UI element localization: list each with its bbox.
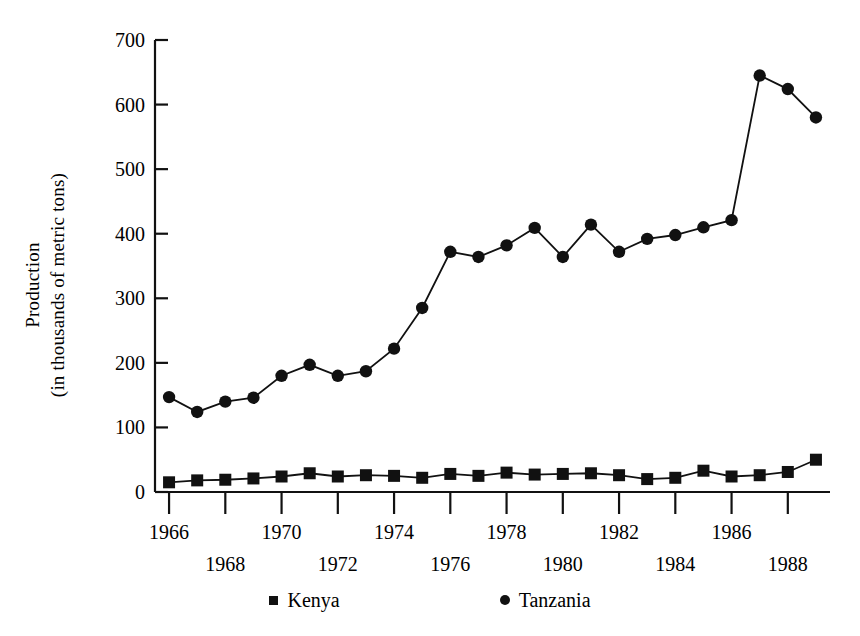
x-axis-tick-label: 1966 (134, 522, 204, 542)
data-point-kenya (444, 468, 456, 480)
data-point-tanzania (528, 222, 540, 234)
axis-lines (155, 40, 830, 492)
y-axis-tick-label: 500 (85, 159, 145, 179)
legend-label-kenya: Kenya (287, 589, 339, 611)
data-point-tanzania (275, 370, 287, 382)
y-axis-ticks (155, 40, 168, 492)
x-axis-tick-label: 1988 (753, 554, 823, 574)
data-point-tanzania (725, 214, 737, 226)
data-point-kenya (472, 470, 484, 482)
data-point-kenya (388, 470, 400, 482)
data-point-tanzania (641, 233, 653, 245)
legend-item-tanzania: Tanzania (500, 587, 591, 612)
x-axis-tick-label: 1972 (303, 554, 373, 574)
data-point-tanzania (332, 370, 344, 382)
data-point-kenya (810, 454, 822, 466)
data-point-kenya (304, 467, 316, 479)
x-axis-tick-label: 1970 (247, 522, 317, 542)
chart-legend: Kenya Tanzania (0, 586, 860, 612)
x-axis-tick-label: 1976 (415, 554, 485, 574)
data-point-kenya (219, 474, 231, 486)
data-point-kenya (529, 469, 541, 481)
data-point-tanzania (500, 239, 512, 251)
data-point-kenya (247, 472, 259, 484)
data-point-kenya (754, 469, 766, 481)
series-line-tanzania (169, 76, 816, 412)
y-axis-label-line2: (in thousands of metric tons) (45, 173, 70, 397)
chart-figure: Production (in thousands of metric tons)… (0, 0, 860, 636)
data-point-tanzania (303, 359, 315, 371)
data-point-kenya (726, 471, 738, 483)
data-point-kenya (191, 474, 203, 486)
circle-marker-icon (500, 595, 510, 605)
data-point-tanzania (388, 342, 400, 354)
data-point-tanzania (163, 391, 175, 403)
y-axis-label: Production (in thousands of metric tons) (14, 120, 76, 450)
y-axis-tick-label: 200 (85, 353, 145, 373)
y-axis-tick-label: 300 (85, 288, 145, 308)
y-axis-label-line1: Production (20, 173, 45, 397)
square-marker-icon (269, 596, 278, 605)
data-point-tanzania (444, 246, 456, 258)
data-point-tanzania (557, 251, 569, 263)
legend-label-tanzania: Tanzania (519, 589, 591, 611)
x-axis-tick-label: 1968 (190, 554, 260, 574)
data-point-tanzania (191, 406, 203, 418)
data-point-kenya (163, 476, 175, 488)
x-axis-tick-label: 1978 (472, 522, 542, 542)
y-axis-tick-label: 400 (85, 224, 145, 244)
x-axis-tick-label: 1984 (640, 554, 710, 574)
y-axis-tick-label: 0 (85, 482, 145, 502)
data-point-kenya (557, 468, 569, 480)
y-axis-tick-label: 700 (85, 30, 145, 50)
data-point-tanzania (585, 218, 597, 230)
y-axis-tick-label: 100 (85, 417, 145, 437)
data-point-tanzania (247, 392, 259, 404)
legend-item-kenya: Kenya (269, 587, 339, 612)
data-point-tanzania (360, 365, 372, 377)
data-point-tanzania (782, 83, 794, 95)
data-point-kenya (669, 472, 681, 484)
data-point-tanzania (697, 221, 709, 233)
data-point-kenya (276, 471, 288, 483)
data-point-kenya (416, 472, 428, 484)
data-point-tanzania (613, 246, 625, 258)
data-point-kenya (501, 467, 513, 479)
data-point-kenya (697, 465, 709, 477)
x-axis-ticks (169, 492, 788, 514)
series-markers (163, 69, 822, 488)
data-point-kenya (782, 466, 794, 478)
data-point-tanzania (416, 302, 428, 314)
data-point-tanzania (753, 69, 765, 81)
x-axis-tick-label: 1982 (584, 522, 654, 542)
data-point-tanzania (669, 229, 681, 241)
data-point-kenya (360, 469, 372, 481)
series-lines (169, 76, 816, 483)
data-point-kenya (613, 469, 625, 481)
data-point-tanzania (219, 395, 231, 407)
data-point-kenya (332, 471, 344, 483)
data-point-tanzania (810, 111, 822, 123)
x-axis-tick-label: 1974 (359, 522, 429, 542)
data-point-kenya (585, 467, 597, 479)
data-point-tanzania (472, 251, 484, 263)
data-point-kenya (641, 473, 653, 485)
series-line-kenya (169, 460, 816, 483)
x-axis-tick-label: 1986 (697, 522, 767, 542)
y-axis-tick-label: 600 (85, 95, 145, 115)
x-axis-tick-label: 1980 (528, 554, 598, 574)
